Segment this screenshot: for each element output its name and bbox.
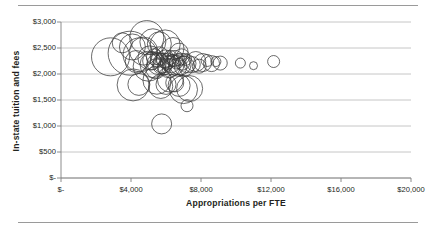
x-tick-label: $12,000 xyxy=(241,185,301,194)
x-tick-label: $16,000 xyxy=(311,185,371,194)
data-point-bubble xyxy=(112,33,132,53)
x-tick-marks-group xyxy=(61,178,411,182)
figure-container: In-state tuition and fees Appropriations… xyxy=(0,0,436,233)
y-tick-label: $1,500 xyxy=(8,95,56,104)
y-tick-label: $2,500 xyxy=(8,43,56,52)
data-point-bubble xyxy=(168,74,190,96)
x-tick-label: $8,000 xyxy=(171,185,231,194)
y-tick-label: $1,000 xyxy=(8,121,56,130)
data-point-bubble xyxy=(152,114,172,134)
x-tick-label: $4,000 xyxy=(101,185,161,194)
y-tick-marks-group xyxy=(57,22,61,178)
y-tick-label: $2,000 xyxy=(8,69,56,78)
x-tick-label: $- xyxy=(31,185,91,194)
y-tick-label: $3,000 xyxy=(8,17,56,26)
data-point-bubble xyxy=(140,29,166,55)
data-point-bubble xyxy=(268,56,280,68)
data-point-bubble xyxy=(235,58,245,68)
chart-plot-area: In-state tuition and fees Appropriations… xyxy=(0,0,436,216)
y-tick-label: $500 xyxy=(8,147,56,156)
data-point-bubble xyxy=(250,62,258,70)
x-axis-title: Appropriations per FTE xyxy=(61,198,411,208)
gridlines-group xyxy=(61,22,411,178)
data-point-bubble xyxy=(128,73,150,95)
x-tick-label: $20,000 xyxy=(381,185,436,194)
data-markers-group xyxy=(92,21,280,134)
bubble-chart-svg xyxy=(0,0,436,216)
y-tick-label: $- xyxy=(8,173,56,182)
bottom-divider-rule xyxy=(18,222,418,223)
